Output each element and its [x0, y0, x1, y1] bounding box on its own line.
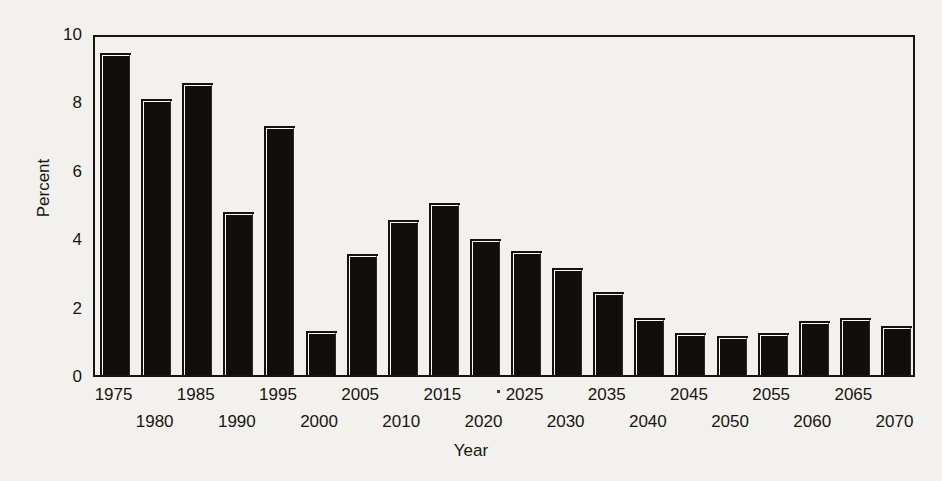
- bar: [800, 322, 829, 375]
- x-tick-label: 2050: [699, 413, 761, 430]
- x-tick-label: 2025: [494, 386, 556, 403]
- bar: [841, 319, 870, 375]
- y-tick-label: 4: [48, 231, 82, 248]
- bar: [759, 334, 788, 375]
- x-tick-label: 1975: [83, 386, 145, 403]
- bar: [594, 293, 623, 375]
- bar: [882, 327, 911, 375]
- y-tick-label: 2: [48, 300, 82, 317]
- y-tick-label: 8: [48, 94, 82, 111]
- x-tick-label: 1995: [247, 386, 309, 403]
- y-axis-title: Percent: [34, 128, 54, 248]
- x-tick-label: 2005: [329, 386, 391, 403]
- x-tick-label: 2040: [617, 413, 679, 430]
- bar: [553, 269, 582, 375]
- bar: [101, 54, 130, 375]
- x-tick-label: 2070: [863, 413, 925, 430]
- bar: [471, 240, 500, 375]
- x-tick-label: 2035: [576, 386, 638, 403]
- x-tick-label: 2055: [740, 386, 802, 403]
- bar: [307, 332, 336, 375]
- x-tick-label: 2030: [535, 413, 597, 430]
- bar: [676, 334, 705, 375]
- bar: [224, 213, 253, 375]
- scan-artifact-dot: [497, 390, 500, 393]
- x-tick-label: 2015: [411, 386, 473, 403]
- x-tick-label: 2000: [288, 413, 350, 430]
- y-tick-label: 10: [48, 26, 82, 43]
- bar: [183, 84, 212, 375]
- x-tick-label: 2060: [781, 413, 843, 430]
- x-tick-label: 1980: [124, 413, 186, 430]
- bar: [265, 127, 294, 375]
- bar: [142, 100, 171, 375]
- x-axis-title: Year: [0, 441, 942, 461]
- x-tick-label: 2045: [658, 386, 720, 403]
- x-tick-label: 2010: [370, 413, 432, 430]
- bar: [430, 204, 459, 375]
- bar: [389, 221, 418, 375]
- y-tick-label: 0: [48, 368, 82, 385]
- y-tick-label: 6: [48, 163, 82, 180]
- bar: [512, 252, 541, 375]
- bar: [718, 337, 747, 375]
- chart-page: Percent 0246810 197519801985199019952000…: [0, 0, 942, 481]
- x-tick-label: 2065: [822, 386, 884, 403]
- x-tick-label: 1990: [206, 413, 268, 430]
- plot-area: [93, 35, 915, 377]
- x-tick-label: 1985: [165, 386, 227, 403]
- x-tick-label: 2020: [452, 413, 514, 430]
- bar: [348, 255, 377, 375]
- bar: [635, 319, 664, 375]
